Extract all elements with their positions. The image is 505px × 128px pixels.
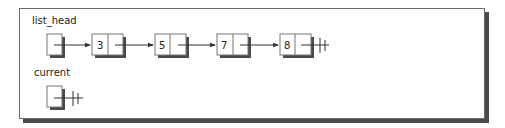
node-8: 8 bbox=[280, 34, 314, 58]
node-7: 7 bbox=[217, 34, 251, 58]
node-value: 8 bbox=[284, 40, 290, 51]
node-3: 3 bbox=[92, 34, 126, 58]
list-head-pointer-box bbox=[47, 34, 65, 58]
linked-list-diagram: 3 5 7 8 bbox=[0, 0, 505, 128]
node-value: 3 bbox=[97, 40, 103, 51]
node-value: 5 bbox=[159, 40, 165, 51]
node-value: 7 bbox=[221, 40, 227, 51]
node-5: 5 bbox=[155, 34, 189, 58]
